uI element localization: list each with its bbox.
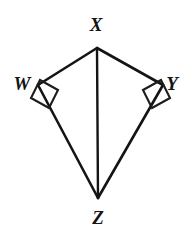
vertex-label-z: Z xyxy=(91,207,104,228)
geometry-figure: X W Y Z xyxy=(0,0,189,240)
diagonal-x-z xyxy=(97,48,98,198)
vertex-label-x: X xyxy=(89,14,104,35)
right-angle-mark-w xyxy=(31,80,58,108)
kite-diagram-svg: X W Y Z xyxy=(0,0,189,240)
vertex-label-w: W xyxy=(14,73,32,94)
edge-y-z xyxy=(98,85,163,198)
edge-x-y xyxy=(97,48,163,85)
edge-w-z xyxy=(38,85,98,198)
vertex-label-y: Y xyxy=(166,73,180,94)
edge-x-w xyxy=(38,48,97,85)
